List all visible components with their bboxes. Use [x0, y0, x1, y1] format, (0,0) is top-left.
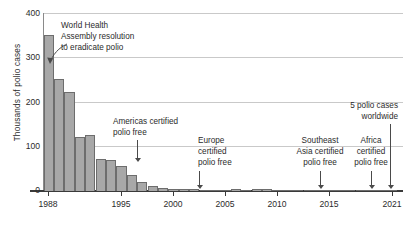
x-tick-2021 [392, 191, 393, 196]
bar-1992 [85, 135, 95, 191]
annotation-europe: Europe certified polio free [198, 135, 258, 168]
bar-2002 [189, 189, 199, 191]
x-tick-label-2015: 2015 [309, 199, 349, 209]
x-tick-2015 [329, 191, 330, 196]
bar-1989 [54, 79, 64, 191]
y-axis-title: Thousands of polio cases [13, 38, 22, 148]
bar-1996 [127, 175, 137, 191]
x-tick-1988 [48, 191, 49, 196]
annotation-wha-line2: Assembly resolution [61, 31, 181, 42]
annotation-europe-arrow-stem [199, 171, 200, 186]
x-tick-2005 [225, 191, 226, 196]
annotation-final-cases-line1: 5 polio cases [305, 100, 398, 111]
bar-2008 [252, 189, 262, 191]
x-tick-label-1988: 1988 [28, 199, 68, 209]
annotation-europe-line1: Europe [198, 135, 258, 146]
bar-2014 [314, 190, 324, 191]
annotation-africa-arrow-head [369, 185, 375, 189]
bar-2017 [345, 190, 355, 191]
bar-1991 [75, 137, 85, 191]
annotation-europe-line3: polio free [198, 157, 258, 168]
annotation-southeast-asia-arrow-head [318, 185, 324, 189]
bar-2003 [200, 190, 210, 191]
bar-2007 [241, 190, 251, 191]
gridline-300 [43, 57, 403, 58]
bar-2018 [356, 190, 366, 191]
x-tick-label-1995: 1995 [101, 199, 141, 209]
annotation-wha-arrow [43, 42, 83, 76]
annotation-africa-arrow-stem [371, 171, 372, 186]
annotation-europe-line2: certified [198, 146, 258, 157]
y-tick-label-400: 400 [14, 8, 40, 18]
y-tick-label-0: 0 [14, 185, 40, 195]
annotation-final-cases-arrow-stem [390, 124, 391, 186]
annotation-americas-line1: Americas certified [113, 116, 223, 127]
x-tick-2010 [277, 191, 278, 196]
bar-1994 [106, 160, 116, 191]
bar-1999 [158, 188, 168, 192]
annotation-wha-line1: World Health [61, 20, 181, 31]
x-tick-2000 [173, 191, 174, 196]
bar-2019 [366, 190, 376, 191]
bar-2012 [293, 190, 303, 191]
bar-2020 [376, 190, 386, 191]
bar-2011 [283, 190, 293, 191]
x-tick-label-2000: 2000 [153, 199, 193, 209]
bar-2004 [210, 190, 220, 191]
x-tick-label-2021: 2021 [372, 199, 405, 209]
bar-1997 [137, 182, 147, 191]
bar-1993 [96, 159, 106, 191]
annotation-americas-arrow-stem [137, 140, 138, 159]
annotation-final-cases-line2: worldwide [305, 111, 398, 122]
bar-1990 [64, 92, 74, 191]
annotation-southeast-asia-arrow-stem [320, 171, 321, 186]
x-tick-label-2005: 2005 [205, 199, 245, 209]
bar-2001 [179, 189, 189, 191]
gridline-400 [43, 13, 403, 14]
annotation-europe-arrow-head [197, 185, 203, 189]
annotation-americas-arrow-head [135, 158, 141, 162]
bar-2009 [262, 189, 272, 191]
polio-cases-chart: 400 300 200 100 0 Thousands of polio cas… [0, 0, 405, 225]
bar-2016 [335, 190, 345, 191]
bar-2013 [304, 190, 314, 191]
bar-2006 [231, 189, 241, 191]
bar-1998 [148, 186, 158, 192]
x-tick-label-2010: 2010 [257, 199, 297, 209]
x-tick-1995 [121, 191, 122, 196]
bar-1995 [116, 166, 126, 191]
annotation-final-cases-arrow-head [388, 185, 394, 189]
annotation-final-cases: 5 polio cases worldwide [305, 100, 398, 122]
